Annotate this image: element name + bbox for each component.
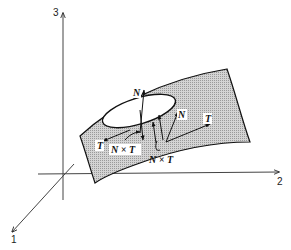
- label-N-top: N: [132, 87, 141, 98]
- label-NxT-bottom: N × T: [148, 154, 174, 165]
- surface-patch: [80, 69, 250, 183]
- surface-frame-diagram: 3 2 1 N N T T: [0, 0, 291, 250]
- label-T-right: T: [205, 113, 212, 124]
- label-NxT-left: N × T: [110, 144, 136, 155]
- axis-2-line: [38, 172, 279, 174]
- axis-2-label: 2: [277, 176, 283, 187]
- label-N-right: N: [177, 109, 186, 120]
- axis-3-label: 3: [53, 7, 59, 18]
- label-T-left: T: [97, 140, 104, 151]
- axis-1-label: 1: [11, 234, 17, 245]
